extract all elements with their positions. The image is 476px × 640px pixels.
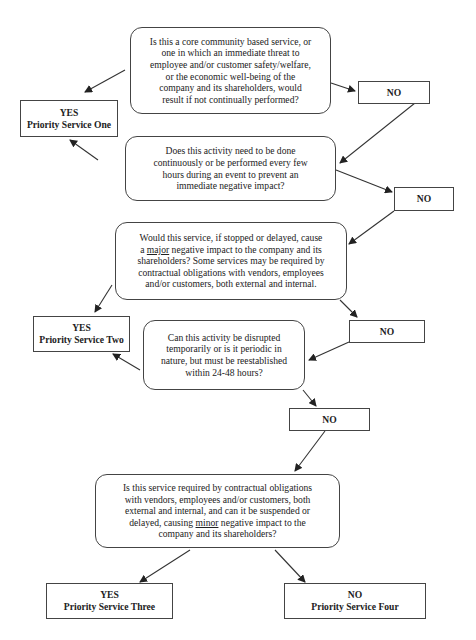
question-line: employee and/or customer safety/welfare, bbox=[150, 59, 311, 71]
text: delayed, causing bbox=[129, 517, 195, 528]
question-line: Would this service, if stopped or delaye… bbox=[137, 232, 324, 244]
text: a bbox=[140, 244, 147, 255]
result-priority-four: NO Priority Service Four bbox=[284, 583, 426, 619]
question-major-impact: Would this service, if stopped or delaye… bbox=[115, 222, 347, 300]
question-line: company and its shareholders? bbox=[123, 528, 312, 540]
question-line: hours during an event to prevent an bbox=[153, 169, 307, 181]
result-answer: YES bbox=[100, 589, 119, 601]
text: negative impact to the company and its bbox=[169, 244, 322, 255]
question-line: nature, but must be reestablished bbox=[161, 355, 287, 367]
result-answer: YES bbox=[60, 107, 79, 119]
result-priority-one: YES Priority Service One bbox=[20, 100, 118, 137]
text: negative impact to the bbox=[218, 517, 305, 528]
emphasis-major: major bbox=[147, 244, 169, 255]
no-box-1: NO bbox=[358, 81, 430, 104]
question-line: with vendors, employees and/or customers… bbox=[123, 494, 312, 506]
result-answer: NO bbox=[348, 589, 362, 601]
question-minor-impact: Is this service required by contractual … bbox=[95, 474, 340, 548]
question-continuous-activity: Does this activity need to be done conti… bbox=[125, 136, 336, 201]
question-line: Is this a core community based service, … bbox=[150, 36, 311, 48]
question-line: and/or customers, both external and inte… bbox=[137, 278, 324, 290]
question-temporary-disruption: Can this activity be disrupted temporari… bbox=[143, 320, 305, 390]
question-line: Is this service required by contractual … bbox=[123, 482, 312, 494]
result-label: Priority Service Three bbox=[64, 601, 155, 613]
question-line: continuously or be performed every few bbox=[153, 157, 307, 169]
question-line: immediate negative impact? bbox=[153, 180, 307, 192]
no-label: NO bbox=[417, 193, 431, 205]
result-label: Priority Service Four bbox=[311, 601, 398, 613]
question-line: Can this activity be disrupted bbox=[161, 332, 287, 344]
result-label: Priority Service One bbox=[27, 119, 111, 131]
question-line: within 24-48 hours? bbox=[161, 367, 287, 379]
no-box-4: NO bbox=[289, 408, 370, 431]
no-label: NO bbox=[387, 87, 401, 99]
question-line: one in which an immediate threat to bbox=[150, 47, 311, 59]
question-line: shareholders? Some services may be requi… bbox=[137, 255, 324, 267]
question-line: or the economic well-being of the bbox=[150, 71, 311, 83]
no-label: NO bbox=[380, 326, 394, 338]
question-line: company and its shareholders, would bbox=[150, 82, 311, 94]
no-label: NO bbox=[322, 414, 336, 426]
no-box-3: NO bbox=[349, 320, 425, 343]
question-line: contractual obligations with vendors, em… bbox=[137, 267, 324, 279]
result-answer: YES bbox=[72, 322, 91, 334]
question-line: Does this activity need to be done bbox=[153, 145, 307, 157]
question-line: a major negative impact to the company a… bbox=[137, 244, 324, 256]
result-label: Priority Service Two bbox=[39, 334, 123, 346]
result-priority-two: YES Priority Service Two bbox=[33, 316, 130, 352]
question-core-service: Is this a core community based service, … bbox=[130, 27, 331, 114]
result-priority-three: YES Priority Service Three bbox=[46, 583, 173, 619]
emphasis-minor: minor bbox=[196, 517, 219, 528]
question-line: external and internal, and can it be sus… bbox=[123, 505, 312, 517]
question-line: result if not continually performed? bbox=[150, 94, 311, 106]
question-line: temporarily or is it periodic in bbox=[161, 343, 287, 355]
no-box-2: NO bbox=[394, 187, 454, 211]
question-line: delayed, causing minor negative impact t… bbox=[123, 517, 312, 529]
